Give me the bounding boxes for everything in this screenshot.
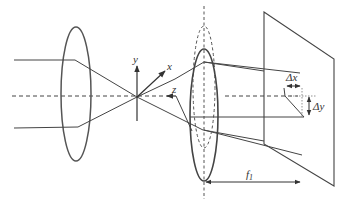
displacement-annotation: Δx Δy (284, 71, 324, 117)
displaced-image-line (284, 88, 304, 117)
lens-1 (61, 27, 91, 161)
x-axis-label: x (166, 60, 172, 72)
incoming-rays (14, 60, 302, 155)
z-axis-label: z (171, 83, 177, 95)
delta-y-label: Δy (312, 100, 324, 112)
focal-length-label: f1 (246, 168, 253, 182)
x-axis-arrow (137, 71, 165, 97)
delta-x-label: Δx (285, 71, 297, 83)
image-plane (264, 12, 334, 186)
optical-diagram: y x z Δx Δy f1 (0, 0, 342, 202)
y-axis-label: y (132, 53, 138, 65)
focal-length-annotation: f1 (206, 168, 300, 182)
coordinate-frame: y x z (132, 53, 177, 121)
